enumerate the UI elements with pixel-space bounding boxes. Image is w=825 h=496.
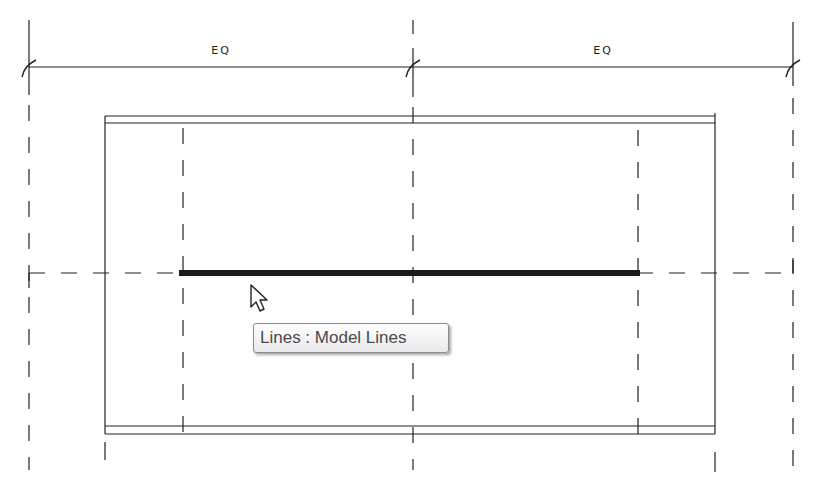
drawing-canvas[interactable] — [0, 0, 825, 496]
dimension-label-right[interactable]: EQ — [593, 44, 613, 57]
extrusion-outline[interactable] — [105, 113, 715, 472]
dimension-string[interactable] — [22, 60, 800, 77]
dimension-label-left[interactable]: EQ — [211, 44, 231, 57]
arrow-pointer-icon — [249, 283, 271, 315]
element-tooltip: Lines : Model Lines — [253, 323, 449, 353]
